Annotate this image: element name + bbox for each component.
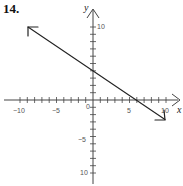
coordinate-plane: −10 −5 0 5 10 10 −5 10 y x [0,0,183,186]
y-tick-label-neg10: 10 [80,169,88,176]
y-tick-label-neg5: −5 [78,136,86,143]
x-axis [4,94,180,106]
y-axis-label: y [83,2,89,13]
x-tick-label-zero: 0 [86,103,90,110]
x-tick-label-neg10: −10 [13,107,25,114]
y-tick-label-pos10: 10 [97,23,105,30]
y-axis [87,9,99,184]
x-tick-label-neg5: −5 [52,107,60,114]
x-tick-label-pos10: 10 [161,107,169,114]
x-tick-label-pos5: 5 [127,107,131,114]
x-axis-label: x [176,104,182,115]
plotted-line [28,27,165,120]
